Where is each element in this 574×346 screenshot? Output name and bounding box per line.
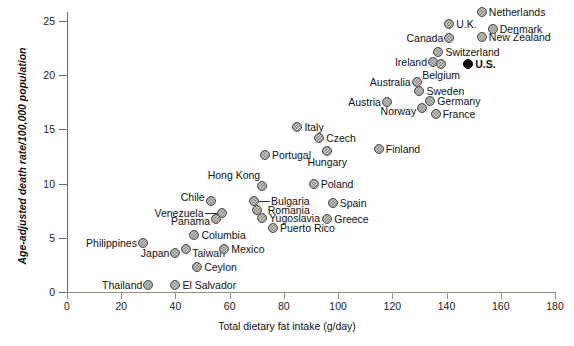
x-tick-label: 20 [106,300,136,312]
data-point[interactable] [431,109,441,119]
data-point[interactable] [189,230,199,240]
x-tick-label: 100 [323,300,353,312]
data-point-label: Hong Kong [0,170,260,181]
data-point-label: Ceylon [204,262,237,273]
x-tick [230,292,231,299]
data-point-label: France [443,109,476,120]
y-tick [59,184,67,185]
x-tick-label: 60 [215,300,245,312]
data-point-label: Puerto Rico [280,223,335,234]
data-point-label: Netherlands [489,7,546,18]
data-point-label: Columbia [201,230,245,241]
x-tick-label: 120 [377,300,407,312]
data-point-label: Australia [0,77,411,88]
data-point[interactable] [219,244,229,254]
data-point-label: Finland [386,144,420,155]
x-tick-label: 180 [540,300,570,312]
y-tick [59,21,67,22]
data-point-label: Mexico [231,244,264,255]
x-tick [67,292,68,299]
data-point[interactable] [268,223,278,233]
data-point-label: Japan [0,248,169,259]
scatter-chart: 0510152025 020406080100120140160180 Tota… [0,0,574,346]
x-axis-line [67,292,555,293]
data-point-label: Italy [304,122,323,133]
data-point-label: U.S. [475,59,495,70]
data-point[interactable] [309,179,319,189]
data-point-label: U.K. [456,19,476,30]
data-point-label: Ireland [0,57,427,68]
x-tick [338,292,339,299]
x-tick [284,292,285,299]
y-tick-label: 25 [31,16,55,26]
y-tick [59,129,67,130]
data-point-label: Denmark [500,24,543,35]
data-point[interactable] [181,244,191,254]
x-tick-label: 40 [160,300,190,312]
x-tick [555,292,556,299]
data-point-label: Chile [0,192,205,203]
data-point-label: El Salvador [182,280,236,291]
data-point-label: Sweden [426,86,464,97]
x-axis-title: Total dietary fat intake (g/day) [0,320,574,332]
data-point-label: Switzerland [445,47,499,58]
data-point[interactable] [257,181,267,191]
data-point[interactable] [206,196,216,206]
data-point[interactable] [488,24,498,34]
data-point-label: Greece [334,214,368,225]
data-point[interactable] [374,144,384,154]
x-tick [447,292,448,299]
data-point-label: Spain [340,198,367,209]
x-tick [501,292,502,299]
x-tick-label: 0 [52,300,82,312]
x-tick [121,292,122,299]
data-point[interactable] [328,198,338,208]
data-point-label: Hungary [267,157,387,168]
y-tick-label: 15 [31,124,55,134]
data-point-label: Czech [326,133,356,144]
data-point-label: Belgium [381,70,501,81]
data-point-label: Canada [0,33,443,44]
data-point-label: Poland [321,179,354,190]
y-tick [59,292,67,293]
x-tick-label: 140 [432,300,462,312]
data-point-label: Germany [437,96,480,107]
data-point-label: Thailand [0,280,142,291]
x-tick-label: 80 [269,300,299,312]
x-tick-label: 160 [486,300,516,312]
data-point-label: Panama [0,216,210,227]
x-tick [175,292,176,299]
x-tick [392,292,393,299]
data-point-label: Norway [0,106,416,117]
data-point[interactable] [477,32,487,42]
